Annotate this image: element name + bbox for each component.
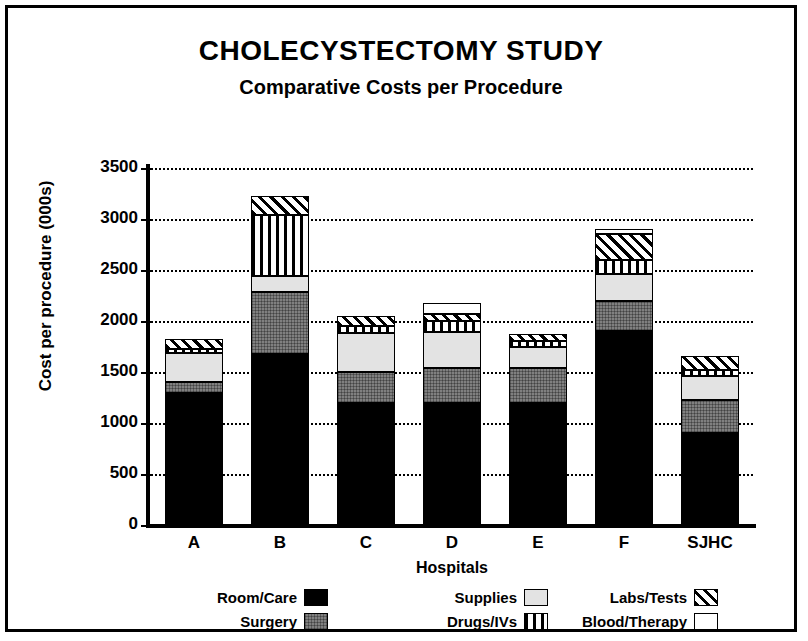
y-axis-tick-label: 3000 bbox=[100, 208, 138, 228]
bar-segment-drugs-ivs bbox=[251, 215, 309, 276]
bar-segment-supplies bbox=[423, 332, 481, 368]
y-axis-tick bbox=[141, 474, 151, 476]
chart-frame: CHOLECYSTECTOMY STUDY Comparative Costs … bbox=[5, 5, 797, 632]
bar-segment-labs-tests bbox=[681, 356, 739, 370]
bar-segment-drugs-ivs bbox=[681, 370, 739, 376]
x-axis-tick-label: B bbox=[235, 533, 325, 553]
bar-segment-surgery bbox=[681, 400, 739, 434]
bar-segment-room-care bbox=[165, 393, 223, 525]
legend-label: Blood/Therapy bbox=[582, 613, 687, 630]
bar-segment-room-care bbox=[251, 354, 309, 525]
page-title: CHOLECYSTECTOMY STUDY bbox=[8, 36, 794, 67]
bar-segment-supplies bbox=[509, 347, 567, 368]
x-axis-title: Hospitals bbox=[151, 559, 753, 577]
bar-segment-surgery bbox=[337, 372, 395, 403]
bar-segment-surgery bbox=[165, 382, 223, 393]
bar-segment-supplies bbox=[681, 376, 739, 399]
bar-segment-drugs-ivs bbox=[595, 260, 653, 274]
y-axis-tick-label: 0 bbox=[129, 514, 138, 534]
bar-segment-labs-tests bbox=[165, 339, 223, 348]
bar-segment-room-care bbox=[337, 403, 395, 525]
bar-c bbox=[337, 316, 395, 525]
bar-segment-blood-therapy bbox=[423, 303, 481, 314]
bar-segment-labs-tests bbox=[423, 314, 481, 321]
bar-segment-room-care bbox=[681, 433, 739, 525]
bar-e bbox=[509, 334, 567, 525]
y-axis-tick-label: 2000 bbox=[100, 310, 138, 330]
bar-segment-labs-tests bbox=[337, 316, 395, 326]
y-axis-tick-label: 3500 bbox=[100, 157, 138, 177]
bar-segment-supplies bbox=[165, 353, 223, 383]
x-axis-tick-label: SJHC bbox=[665, 533, 755, 553]
y-axis-tick bbox=[141, 372, 151, 374]
x-axis-tick-labels: ABCDEFSJHC bbox=[151, 533, 753, 559]
legend-item: Labs/Tests bbox=[118, 586, 718, 608]
y-axis-tick-label: 1500 bbox=[100, 361, 138, 381]
bar-segment-drugs-ivs bbox=[337, 326, 395, 333]
page-subtitle: Comparative Costs per Procedure bbox=[8, 76, 794, 98]
y-axis-tick-label: 2500 bbox=[100, 259, 138, 279]
gridline bbox=[151, 219, 753, 221]
bar-b bbox=[251, 196, 309, 525]
bar-segment-labs-tests bbox=[509, 334, 567, 341]
bar-segment-surgery bbox=[251, 292, 309, 353]
bar-segment-drugs-ivs bbox=[423, 321, 481, 332]
bar-segment-surgery bbox=[509, 368, 567, 403]
bar-segment-blood-therapy bbox=[595, 229, 653, 234]
gridline bbox=[151, 168, 753, 170]
bar-d bbox=[423, 303, 481, 525]
y-axis-tick-label: 500 bbox=[110, 463, 138, 483]
y-axis-tick bbox=[141, 423, 151, 425]
x-axis-tick-label: C bbox=[321, 533, 411, 553]
chart-legend: Room/CareSurgerySuppliesDrugs/IVsLabs/Te… bbox=[118, 586, 718, 634]
bar-segment-labs-tests bbox=[595, 234, 653, 260]
bar-segment-labs-tests bbox=[251, 196, 309, 215]
bar-segment-supplies bbox=[251, 276, 309, 292]
bar-segment-supplies bbox=[595, 274, 653, 301]
bar-f bbox=[595, 229, 653, 525]
bar-segment-surgery bbox=[423, 368, 481, 403]
bar-sjhc bbox=[681, 356, 739, 525]
legend-swatch bbox=[694, 613, 718, 630]
y-axis-tick-label: 1000 bbox=[100, 412, 138, 432]
y-axis-tick bbox=[141, 219, 151, 221]
x-axis-tick-label: D bbox=[407, 533, 497, 553]
y-axis-tick bbox=[141, 270, 151, 272]
x-axis-tick-label: F bbox=[579, 533, 669, 553]
y-axis-tick bbox=[141, 525, 151, 527]
bar-segment-drugs-ivs bbox=[165, 349, 223, 353]
legend-item: Blood/Therapy bbox=[118, 610, 718, 632]
legend-swatch bbox=[694, 589, 718, 606]
y-axis-tick bbox=[141, 168, 151, 170]
gridline bbox=[151, 270, 753, 272]
bar-a bbox=[165, 339, 223, 525]
x-axis-tick-label: E bbox=[493, 533, 583, 553]
bar-segment-drugs-ivs bbox=[509, 341, 567, 346]
legend-label: Labs/Tests bbox=[610, 589, 687, 606]
chart-title-block: CHOLECYSTECTOMY STUDY Comparative Costs … bbox=[8, 36, 794, 98]
bar-segment-supplies bbox=[337, 333, 395, 372]
bar-segment-room-care bbox=[423, 403, 481, 525]
plot-area bbox=[151, 168, 753, 525]
bar-segment-surgery bbox=[595, 301, 653, 332]
y-axis-tick bbox=[141, 321, 151, 323]
bar-segment-room-care bbox=[595, 331, 653, 525]
bar-segment-room-care bbox=[509, 403, 567, 525]
y-axis-tick-labels: 0500100015002000250030003500 bbox=[48, 168, 138, 525]
x-axis-tick-label: A bbox=[149, 533, 239, 553]
